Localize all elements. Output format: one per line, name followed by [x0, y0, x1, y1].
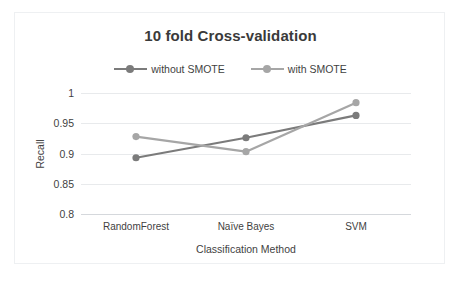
data-point-marker [132, 154, 139, 161]
x-tick-label: RandomForest [103, 221, 169, 232]
y-tick-label: 0.95 [54, 117, 74, 129]
chart-figure: 10 fold Cross-validation without SMOTE w… [0, 0, 459, 284]
y-tick-label: 0.9 [59, 148, 74, 160]
chart-frame[interactable]: 10 fold Cross-validation without SMOTE w… [14, 12, 445, 264]
legend-dot-with-smote [263, 65, 271, 73]
data-point-marker [352, 99, 359, 106]
y-axis-title: Recall [34, 139, 46, 168]
chart-legend[interactable]: without SMOTE with SMOTE [15, 63, 446, 75]
legend-marker-icon-with-smote [251, 64, 284, 74]
chart-title: 10 fold Cross-validation [15, 27, 446, 44]
series-line [136, 103, 356, 152]
legend-dot-without-smote [126, 65, 134, 73]
legend-item-with-smote[interactable]: with SMOTE [251, 63, 347, 75]
plot-area: 10.950.90.850.8 RandomForestNaïve BayesS… [81, 93, 411, 214]
data-point-marker [242, 148, 249, 155]
legend-label-with-smote: with SMOTE [288, 63, 347, 75]
legend-label-without-smote: without SMOTE [151, 63, 225, 75]
legend-item-without-smote[interactable]: without SMOTE [114, 63, 225, 75]
series-plot [81, 93, 411, 214]
data-point-marker [352, 112, 359, 119]
x-tick-label: SVM [345, 221, 367, 232]
x-tick-label: Naïve Bayes [218, 221, 275, 232]
x-axis-line [81, 214, 411, 215]
y-tick-label: 0.8 [59, 208, 74, 220]
y-tick-label: 1 [68, 87, 74, 99]
legend-marker-icon-without-smote [114, 64, 147, 74]
y-tick-label: 0.85 [54, 178, 74, 190]
x-axis-title: Classification Method [81, 243, 411, 255]
data-point-marker [132, 133, 139, 140]
data-point-marker [242, 134, 249, 141]
